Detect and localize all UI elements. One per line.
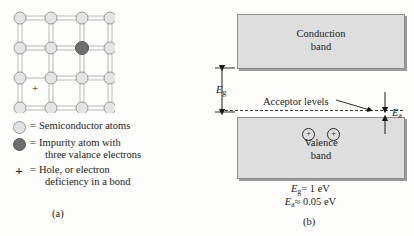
- legend-item-semiconductor: = Semiconductor atoms: [8, 120, 203, 134]
- valence-band-block: + + Valence band: [237, 117, 405, 179]
- panel-a: + = Semiconductor atoms = Impurity ato: [0, 0, 207, 236]
- eq1-value: = 1 eV: [301, 183, 330, 194]
- conduction-band-line2: band: [311, 41, 331, 52]
- hole-plus-icon: +: [32, 82, 38, 94]
- semiconductor-atom: [76, 12, 88, 24]
- energy-gap-subscript: g: [222, 88, 226, 97]
- semiconductor-atom: [104, 42, 115, 54]
- legend-equals: =: [30, 164, 39, 176]
- legend-item-hole: + = Hole, or electron deficiency in a bo…: [8, 164, 203, 188]
- legend-equals: =: [30, 120, 39, 132]
- conduction-band-block: Conduction band: [237, 14, 405, 69]
- legend: = Semiconductor atoms = Impurity atom wi…: [8, 120, 203, 191]
- light-circle-icon: [8, 120, 30, 134]
- legend-line1: Impurity atom with: [39, 137, 121, 148]
- legend-line1: Hole, or electron: [39, 164, 110, 175]
- panel-b: Conduction band Acceptor levels + + Vale…: [207, 0, 414, 236]
- valence-band-label: Valence band: [238, 137, 404, 162]
- conduction-band-line1: Conduction: [297, 28, 346, 39]
- legend-label: Hole, or electron deficiency in a bond: [39, 164, 130, 188]
- semiconductor-atom: [45, 102, 57, 113]
- valence-band-line1: Valence: [304, 137, 337, 148]
- acceptor-energy-label: Ea: [392, 107, 402, 118]
- semiconductor-atom: [14, 12, 26, 24]
- caption-b: (b): [303, 216, 315, 227]
- plus-icon: +: [8, 164, 30, 176]
- semiconductor-atom: [14, 42, 26, 54]
- semiconductor-atom: [104, 102, 115, 113]
- crystal-lattice-diagram: +: [10, 8, 115, 113]
- equation-acceptor-energy: Ea≈ 0.05 eV: [207, 196, 414, 207]
- acceptor-energy-subscript: a: [398, 111, 401, 120]
- dark-circle-icon: [8, 137, 30, 151]
- semiconductor-atom: [104, 72, 115, 84]
- lattice-atoms: [14, 12, 115, 113]
- impurity-atom: [76, 42, 89, 55]
- semiconductor-atom: [45, 42, 57, 54]
- legend-item-impurity: = Impurity atom with three valance elect…: [8, 137, 203, 161]
- equation-energy-gap: Eg= 1 eV: [207, 183, 414, 194]
- semiconductor-atom: [76, 72, 88, 84]
- legend-label: Semiconductor atoms: [39, 120, 130, 132]
- acceptor-levels-label: Acceptor levels: [263, 96, 329, 107]
- conduction-band-label: Conduction band: [238, 28, 404, 53]
- caption-a: (a): [52, 208, 64, 219]
- semiconductor-atom: [45, 72, 57, 84]
- semiconductor-atom: [14, 72, 26, 84]
- legend-label: Impurity atom with three valance electro…: [39, 137, 141, 161]
- valence-band-line2: band: [311, 150, 331, 161]
- legend-line1: Semiconductor atoms: [39, 120, 130, 131]
- eq1-symbol: E: [291, 183, 297, 194]
- eq2-value: ≈ 0.05 eV: [295, 196, 337, 207]
- legend-line2: three valance electrons: [39, 149, 141, 161]
- lattice-bonds: [18, 16, 112, 110]
- semiconductor-atom: [45, 12, 57, 24]
- semiconductor-atom: [76, 102, 88, 113]
- eq1-subscript: g: [298, 187, 302, 196]
- legend-equals: =: [30, 137, 39, 149]
- semiconductor-atom: [14, 102, 26, 113]
- acceptor-leader-line: [336, 100, 370, 110]
- eq2-subscript: a: [291, 200, 294, 209]
- figure-semiconductor-acceptor: + = Semiconductor atoms = Impurity ato: [0, 0, 414, 236]
- semiconductor-atom: [104, 12, 115, 24]
- acceptor-level-dashed-line: [225, 110, 403, 111]
- legend-line2: deficiency in a bond: [39, 176, 130, 188]
- energy-gap-label: Eg: [216, 84, 226, 95]
- lattice-svg: +: [10, 8, 115, 113]
